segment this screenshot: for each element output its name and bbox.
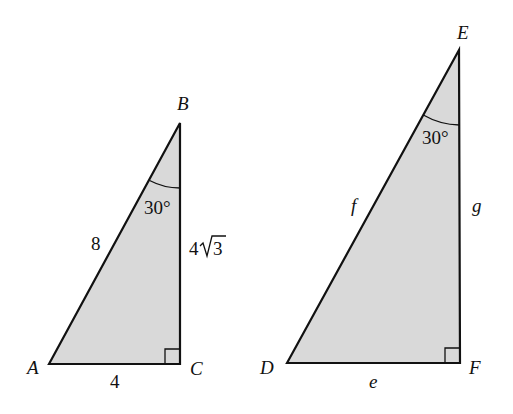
angle-label-b: 30° [144,197,171,218]
side-label-ac: 4 [110,371,120,392]
side-label-bc-radicand: 3 [213,238,223,259]
triangle-def-shape [287,50,460,363]
vertex-label-b: B [177,93,189,114]
vertex-label-c: C [190,358,203,379]
similar-triangles-diagram: A B C 8 4 4 3 30° D E F f g e 30° [0,0,513,414]
side-label-df: e [369,371,377,392]
side-label-bc: 4 3 [189,236,226,259]
triangle-abc-shape [49,123,180,364]
vertex-label-f: F [468,357,481,378]
vertex-label-e: E [456,22,469,43]
vertex-label-d: D [259,357,274,378]
side-label-ab: 8 [91,233,101,254]
side-label-de: f [351,195,359,216]
side-label-ef: g [472,195,482,216]
triangle-def: D E F f g e 30° [259,22,482,392]
angle-label-e: 30° [422,127,449,148]
side-label-bc-coefficient: 4 [189,238,199,259]
vertex-label-a: A [25,357,39,378]
triangle-abc: A B C 8 4 4 3 30° [25,93,226,392]
